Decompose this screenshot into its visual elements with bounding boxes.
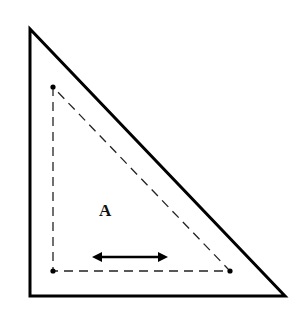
vertex-dot-top bbox=[50, 84, 55, 89]
diagram-canvas: A bbox=[0, 0, 296, 319]
triangle-diagram: A bbox=[0, 0, 296, 319]
double-arrow-icon bbox=[92, 252, 168, 262]
vertex-dot-bottom-left bbox=[50, 268, 55, 273]
vertex-dot-bottom-right bbox=[227, 268, 232, 273]
region-label: A bbox=[99, 201, 112, 220]
inner-dashed-triangle bbox=[53, 87, 230, 271]
